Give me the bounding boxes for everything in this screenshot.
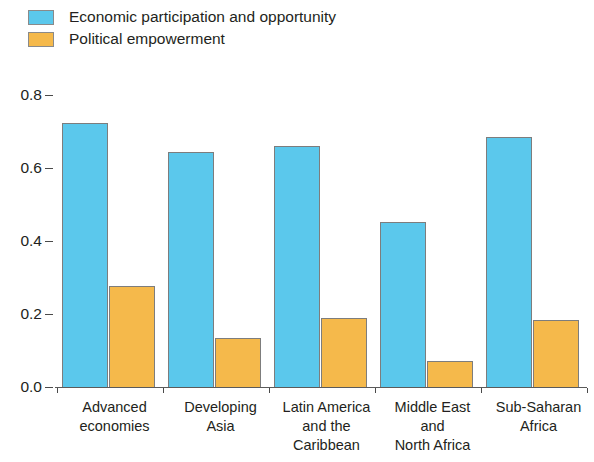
x-axis-category-label-line: and bbox=[377, 417, 489, 436]
x-axis-category-label-line: Developing bbox=[165, 398, 277, 417]
bar bbox=[321, 318, 367, 387]
x-axis-line bbox=[55, 387, 587, 388]
y-axis-tick-mark bbox=[45, 387, 53, 388]
bar-chart: Economic participation and opportunity P… bbox=[0, 0, 594, 462]
x-axis-category-label-line: Middle East bbox=[377, 398, 489, 417]
bar bbox=[427, 361, 473, 387]
bar bbox=[380, 222, 426, 387]
x-axis-category-label-line: Africa bbox=[483, 417, 594, 436]
plot-area: 0.00.20.40.60.8 AdvancedeconomiesDevelop… bbox=[0, 0, 594, 462]
bar bbox=[62, 123, 108, 387]
x-axis-tick-mark bbox=[375, 388, 376, 393]
y-axis-tick-label: 0.6 bbox=[8, 160, 42, 176]
x-axis-category-label: DevelopingAsia bbox=[165, 398, 277, 436]
x-axis-category-label: Advancedeconomies bbox=[59, 398, 171, 436]
y-axis-tick-label: 0.0 bbox=[8, 379, 42, 395]
bar bbox=[274, 146, 320, 387]
x-axis-tick-mark bbox=[587, 388, 588, 393]
y-axis-tick-mark bbox=[45, 241, 53, 242]
x-axis-category-label-line: economies bbox=[59, 417, 171, 436]
y-axis-tick-label: 0.2 bbox=[8, 306, 42, 322]
y-axis-tick-label: 0.4 bbox=[8, 233, 42, 249]
x-axis-category-label: Sub-SaharanAfrica bbox=[483, 398, 594, 436]
x-axis-tick-mark bbox=[57, 388, 58, 393]
x-axis-tick-mark bbox=[163, 388, 164, 393]
y-axis-tick-mark bbox=[45, 95, 53, 96]
bar bbox=[109, 286, 155, 387]
x-axis-tick-mark bbox=[481, 388, 482, 393]
x-axis-category-label: Middle EastandNorth Africa bbox=[377, 398, 489, 455]
y-axis-tick-mark bbox=[45, 314, 53, 315]
x-axis-category-label-line: Caribbean bbox=[271, 436, 383, 455]
bar bbox=[168, 152, 214, 387]
bar bbox=[215, 338, 261, 387]
x-axis-category-label-line: Asia bbox=[165, 417, 277, 436]
y-axis-tick-label: 0.8 bbox=[8, 87, 42, 103]
y-axis-tick-mark bbox=[45, 168, 53, 169]
x-axis-category-label-line: and the bbox=[271, 417, 383, 436]
x-axis-tick-mark bbox=[269, 388, 270, 393]
x-axis-category-label-line: North Africa bbox=[377, 436, 489, 455]
x-axis-category-label-line: Sub-Saharan bbox=[483, 398, 594, 417]
x-axis-category-label: Latin Americaand theCaribbean bbox=[271, 398, 383, 455]
x-axis-category-label-line: Advanced bbox=[59, 398, 171, 417]
bar bbox=[533, 320, 579, 387]
x-axis-category-label-line: Latin America bbox=[271, 398, 383, 417]
bar bbox=[486, 137, 532, 387]
